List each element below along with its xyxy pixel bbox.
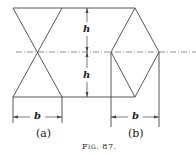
panel-a-label: (a) — [36, 128, 51, 139]
figure-drawing — [0, 0, 196, 154]
upper-height-label: h — [83, 24, 90, 34]
panel-b-label: (b) — [128, 128, 144, 139]
figure-caption: Fig. 87. — [82, 143, 117, 151]
hourglass-shape — [13, 8, 62, 97]
rhombus-shape — [111, 8, 159, 97]
panel-b-width-label: b — [132, 111, 139, 121]
panel-a-width-label: b — [34, 111, 41, 121]
lower-height-label: h — [83, 70, 90, 80]
